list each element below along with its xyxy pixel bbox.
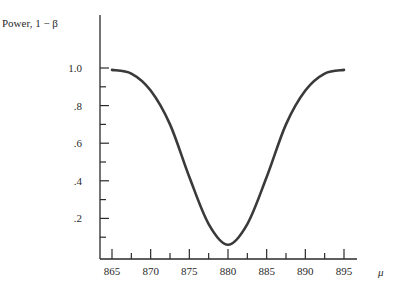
y-tick-label: .2 [74,212,82,224]
x-tick-label: 885 [258,265,275,277]
x-tick-label: 895 [336,265,353,277]
x-tick-label: 890 [297,265,314,277]
power-curve-line [112,70,344,245]
x-tick-label: 875 [181,265,198,277]
x-tick-label: 880 [220,265,237,277]
x-tick-label: 865 [104,265,121,277]
y-tick-label: .4 [74,175,83,187]
y-ticks: .2.4.6.81.0 [68,62,109,237]
x-tick-label: 870 [142,265,159,277]
x-axis-label: μ [377,266,384,278]
y-axis-label: Power, 1 − β [2,17,58,29]
y-tick-label: .6 [74,137,83,149]
y-tick-label: .8 [74,100,83,112]
x-ticks: 865870875880885890895 [104,249,353,277]
y-tick-label: 1.0 [68,62,82,74]
power-curve-chart: Power, 1 − β .2.4.6.81.0 865870875880885… [0,0,403,286]
